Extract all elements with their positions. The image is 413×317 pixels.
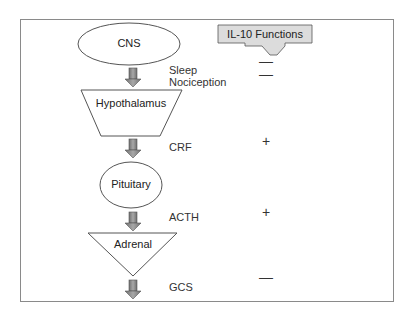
down-arrow-icon: [125, 68, 141, 87]
sign-nociception: —: [259, 67, 273, 81]
cns-label: CNS: [98, 37, 160, 49]
effect-crf: CRF: [169, 141, 192, 154]
hypothalamus-label: Hypothalamus: [90, 97, 172, 109]
adrenal-label: Adrenal: [105, 238, 161, 250]
pituitary-label: Pituitary: [104, 178, 158, 190]
sign-acth: +: [262, 205, 270, 219]
il10-functions-title: IL-10 Functions: [218, 25, 312, 43]
down-arrow-icon: [125, 139, 141, 158]
down-arrow-icon: [125, 280, 141, 299]
diagram-shapes: [0, 0, 413, 317]
effect-gcs: GCS: [169, 281, 193, 294]
effect-nociception: Nociception: [169, 76, 226, 89]
sign-crf: +: [262, 134, 270, 148]
down-arrow-icon: [125, 212, 141, 231]
sign-gcs: —: [259, 270, 273, 284]
effect-acth: ACTH: [169, 211, 199, 224]
